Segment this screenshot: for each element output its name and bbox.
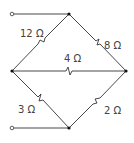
label-8-ohm: 8 Ω bbox=[104, 40, 122, 51]
label-4-ohm: 4 Ω bbox=[64, 53, 82, 64]
bottom-terminal-icon bbox=[10, 126, 14, 130]
resistor-4-ohm bbox=[12, 67, 126, 75]
resistor-12-ohm bbox=[12, 14, 69, 71]
bottom-node-icon bbox=[67, 126, 70, 129]
label-12-ohm: 12 Ω bbox=[20, 28, 44, 39]
top-terminal-icon bbox=[10, 12, 14, 16]
resistor-2-ohm bbox=[69, 71, 126, 128]
label-2-ohm: 2 Ω bbox=[104, 105, 122, 116]
left-node-icon bbox=[10, 69, 13, 72]
circuit-diagram: 12 Ω 8 Ω 4 Ω 3 Ω 2 Ω bbox=[0, 0, 134, 143]
resistor-3-ohm bbox=[12, 71, 69, 128]
right-node-icon bbox=[124, 69, 127, 72]
label-3-ohm: 3 Ω bbox=[18, 104, 36, 115]
top-node-icon bbox=[67, 12, 70, 15]
